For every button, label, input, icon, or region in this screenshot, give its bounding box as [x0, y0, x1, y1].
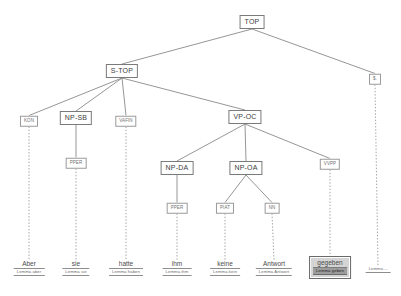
leaf-lemma[interactable]: Lemma Antwort [256, 269, 292, 276]
leaf-lemma[interactable]: Lemma haben [109, 269, 143, 276]
leaf-word: sie [62, 260, 89, 269]
node-vafin[interactable]: VAFIN [115, 116, 136, 127]
leaf-token[interactable]: sie Lemma sie [62, 260, 89, 276]
node-np-da[interactable]: NP-DA [161, 161, 194, 175]
node-kon[interactable]: KON [20, 116, 38, 127]
leaf-word: Antwort [256, 260, 292, 269]
node-np-oa[interactable]: NP-OA [229, 161, 262, 175]
leaf-lemma[interactable]: Lemma aber [14, 269, 45, 276]
tree-edges [0, 0, 401, 296]
node-s-top[interactable]: S-TOP [106, 64, 138, 78]
leaf-lemma-selected[interactable]: Lemma geben [313, 268, 347, 275]
leaf-token-selected[interactable]: gegeben Lemma geben [309, 256, 351, 279]
leaf-token[interactable]: keine Lemma kein [210, 260, 240, 276]
leaf-token[interactable]: Antwort Lemma Antwort [256, 260, 292, 276]
leaf-lemma[interactable]: Lemma sie [62, 269, 89, 276]
node-vp-oc[interactable]: VP-OC [228, 110, 261, 124]
parse-tree-canvas: TOP S-TOP $. VP-OC NP-SB KON VAFIN NP-DA… [0, 0, 401, 296]
node-nn[interactable]: NN [265, 203, 280, 214]
leaf-word: gegeben [313, 259, 347, 268]
leaf-token[interactable]: Aber Lemma aber [14, 260, 45, 276]
leaf-lemma[interactable]: Lemma ihm [163, 269, 192, 276]
node-vvpp[interactable]: VVPP [320, 159, 340, 170]
leaf-word: hatte [109, 260, 143, 269]
leaf-word: ihm [163, 260, 192, 269]
leaf-lemma[interactable]: Lemma -- [366, 266, 391, 273]
node-pper-ihm[interactable]: PPER [167, 203, 188, 214]
leaf-token[interactable]: hatte Lemma haben [109, 260, 143, 276]
node-top[interactable]: TOP [240, 15, 265, 29]
node-piat[interactable]: PIAT [216, 203, 234, 214]
node-punct-phrase[interactable]: $. [369, 74, 381, 85]
leaf-token[interactable]: Lemma -- [366, 266, 391, 273]
node-np-sb[interactable]: NP-SB [60, 111, 92, 125]
node-pper-sie[interactable]: PPER [66, 158, 87, 169]
leaf-lemma[interactable]: Lemma kein [210, 269, 240, 276]
leaf-word: Aber [14, 260, 45, 269]
leaf-word: keine [210, 260, 240, 269]
leaf-token[interactable]: ihm Lemma ihm [163, 260, 192, 276]
